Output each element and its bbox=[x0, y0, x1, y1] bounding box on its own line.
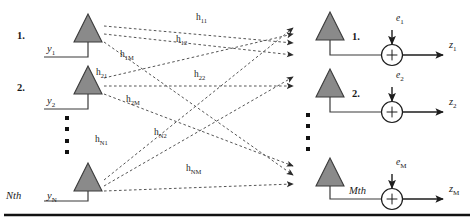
adder-node-2 bbox=[382, 87, 444, 123]
channel-path-h11 bbox=[104, 26, 293, 43]
channel-label-hN2: hN2 bbox=[154, 128, 167, 139]
channel-label-h21: h21 bbox=[96, 68, 107, 79]
channel-label-h22: h22 bbox=[194, 70, 205, 81]
output-label-2: z2 bbox=[449, 97, 457, 110]
diagram-canvas bbox=[0, 0, 474, 220]
mimo-channel-diagram: 1. y1 2. y2 Nth yN h11 h12 h1M h21 h22 h… bbox=[0, 0, 474, 220]
receive-ellipsis bbox=[305, 113, 311, 151]
transmit-signal-n: yN bbox=[47, 191, 57, 204]
receive-index-m: Mth bbox=[349, 186, 366, 197]
channel-label-hN1: hN1 bbox=[95, 135, 108, 146]
transmit-signal-1: y1 bbox=[47, 44, 55, 57]
transmit-signal-2: y2 bbox=[47, 96, 55, 109]
channel-label-h1M: h1M bbox=[120, 50, 134, 61]
transmit-index-1: 1. bbox=[17, 31, 25, 42]
channel-path-hNM bbox=[104, 184, 293, 191]
transmit-index-n: Nth bbox=[6, 191, 21, 202]
noise-label-1: e1 bbox=[396, 14, 404, 26]
transmit-ellipsis bbox=[64, 116, 70, 154]
adder-node-1 bbox=[382, 30, 444, 66]
noise-label-m: eM bbox=[396, 158, 406, 170]
channel-label-hNM: hNM bbox=[186, 164, 201, 175]
adder-node-m bbox=[382, 174, 444, 210]
channel-label-h11: h11 bbox=[196, 13, 207, 24]
receive-index-1: 1. bbox=[352, 32, 360, 43]
output-label-m: zM bbox=[449, 184, 459, 197]
transmit-index-2: 2. bbox=[17, 83, 25, 94]
receive-index-2: 2. bbox=[352, 89, 360, 100]
channel-label-h12: h12 bbox=[176, 35, 187, 46]
output-label-1: z1 bbox=[449, 40, 457, 53]
channel-label-h2M: h2M bbox=[126, 95, 140, 106]
noise-label-2: e2 bbox=[396, 71, 404, 83]
